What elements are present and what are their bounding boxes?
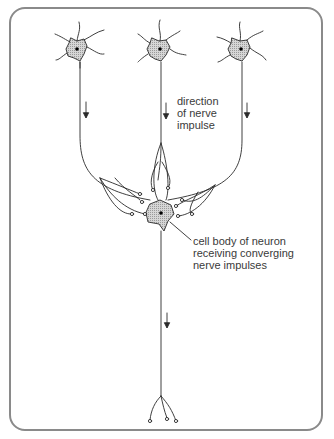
direction-label: direction of nerve impulse bbox=[177, 95, 219, 131]
receiving-neuron bbox=[100, 143, 215, 423]
cell-body-icon bbox=[146, 200, 174, 231]
arrow-down-icon bbox=[164, 103, 169, 119]
nucleus-icon bbox=[158, 47, 162, 51]
leader-line bbox=[170, 222, 191, 240]
cell-body-icon bbox=[228, 38, 250, 61]
arrow-down-icon bbox=[165, 313, 170, 328]
nucleus-icon bbox=[239, 47, 243, 51]
arrow-down-icon bbox=[84, 102, 89, 118]
cell-body-label: cell body of neuron receiving converging… bbox=[193, 235, 294, 271]
arrow-down-icon bbox=[245, 103, 250, 118]
presynaptic-neuron-left bbox=[55, 22, 150, 200]
neuron-convergence-diagram bbox=[0, 0, 334, 439]
nucleus-icon bbox=[159, 211, 163, 215]
nucleus-icon bbox=[75, 47, 79, 51]
